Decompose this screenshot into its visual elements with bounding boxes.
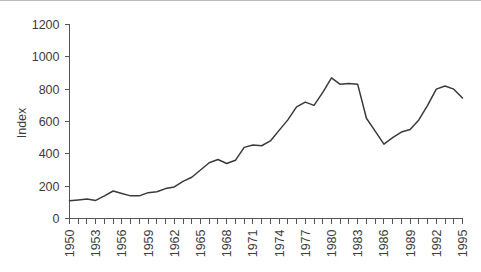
y-tick-label: 400 xyxy=(39,147,60,161)
x-tick-label: 1986 xyxy=(377,229,391,257)
y-tick-label: 1200 xyxy=(32,18,60,32)
y-axis-tick-marks xyxy=(65,25,70,219)
x-tick-label: 1965 xyxy=(194,229,208,257)
chart-figure: Index 020040060080010001200 195019531956… xyxy=(0,0,481,272)
x-tick-label: 1995 xyxy=(456,229,470,257)
x-tick-label: 1962 xyxy=(168,229,182,257)
x-tick-label: 1953 xyxy=(89,229,103,257)
x-tick-label: 1977 xyxy=(299,229,313,257)
x-tick-label: 1989 xyxy=(404,229,418,257)
x-tick-label: 1968 xyxy=(220,229,234,257)
x-tick-label: 1959 xyxy=(142,229,156,257)
x-tick-label: 1956 xyxy=(115,229,129,257)
series-group xyxy=(70,78,463,201)
x-tick-label: 1980 xyxy=(325,229,339,257)
x-tick-label: 1983 xyxy=(351,229,365,257)
y-axis-title: Index xyxy=(15,107,29,138)
series-line xyxy=(70,78,463,201)
y-tick-label: 0 xyxy=(53,212,60,226)
y-axis-tick-labels: 020040060080010001200 xyxy=(32,18,60,226)
x-axis-tick-labels: 1950195319561959196219651968197119741977… xyxy=(63,229,470,257)
x-tick-label: 1992 xyxy=(430,229,444,257)
x-tick-label: 1971 xyxy=(246,229,260,257)
y-tick-label: 200 xyxy=(39,180,60,194)
line-chart: Index 020040060080010001200 195019531956… xyxy=(0,0,481,272)
x-axis-tick-marks xyxy=(70,219,463,224)
x-tick-label: 1950 xyxy=(63,229,77,257)
y-tick-label: 600 xyxy=(39,115,60,129)
x-tick-label: 1974 xyxy=(273,229,287,257)
y-tick-label: 800 xyxy=(39,83,60,97)
y-tick-label: 1000 xyxy=(32,50,60,64)
